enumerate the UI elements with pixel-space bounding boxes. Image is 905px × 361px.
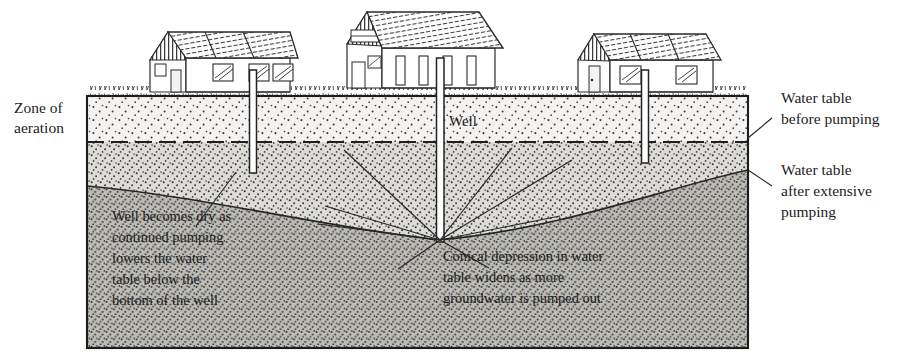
zone-of-aeration-line2: aeration	[14, 119, 64, 136]
window-icon	[368, 56, 381, 68]
water-table-after-line1: Water table	[781, 161, 852, 178]
water-table-after-label: Water table after extensive pumping	[781, 161, 872, 220]
cone-callout-line2: table widens as more	[443, 269, 564, 285]
cross-section-diagram: Zone of aeration Water table before pump…	[0, 0, 905, 361]
dry-well-callout-line4: table below the	[112, 271, 200, 287]
house-right	[578, 34, 721, 92]
dry-well-callout-line5: bottom of the well	[112, 292, 218, 308]
house-left	[150, 32, 298, 92]
well-center	[437, 58, 445, 242]
zone-of-aeration-label: Zone of aeration	[14, 99, 64, 136]
well-right	[642, 70, 649, 163]
water-table-before-label: Water table before pumping	[781, 89, 880, 127]
window-icon	[620, 66, 641, 84]
after-pumping-leader-line	[748, 170, 772, 186]
water-table-after-line2: after extensive	[781, 182, 872, 199]
well-label: Well	[449, 113, 477, 129]
dry-well-callout-line1: Well becomes dry as	[112, 208, 232, 224]
cone-callout-line3: groundwater is pumped out	[443, 290, 601, 306]
before-pumping-leader-line	[748, 118, 772, 138]
dry-well-callout-line2: continued pumping	[112, 229, 224, 245]
dry-well-callout-line3: lowers the water	[112, 250, 207, 266]
window-icon	[676, 66, 697, 84]
house-center	[347, 12, 503, 88]
water-table-after-line3: pumping	[781, 203, 836, 220]
figure-canvas: Zone of aeration Water table before pump…	[0, 0, 905, 361]
water-table-before-line2: before pumping	[781, 110, 880, 127]
cone-callout-line1: Conical depression in water	[443, 248, 603, 264]
well-left	[250, 70, 257, 173]
water-table-before-line1: Water table	[781, 89, 852, 106]
window-icon	[213, 64, 233, 81]
window-icon	[273, 64, 293, 81]
zone-of-aeration-line1: Zone of	[14, 99, 63, 116]
